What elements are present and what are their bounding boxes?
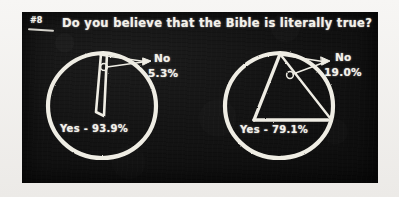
pie-radius-a-old-earth [254, 54, 280, 120]
slide-number-underline [28, 28, 54, 32]
chart-young-earth: Yes - 93.9% No 5.3% Young Earth [28, 40, 196, 180]
pie-value-no-young-earth: 5.3% [148, 67, 178, 79]
slide-number: #8 [30, 16, 42, 25]
pie-value-no-old-earth: 19.0% [324, 66, 362, 78]
slide-root: #8 Do you believe that the Bible is lite… [0, 0, 399, 197]
page-title: Do you believe that the Bible is literal… [62, 16, 372, 30]
leader-arrow-young-earth [143, 58, 151, 65]
pie-label-yes-young-earth: Yes - 93.9% [60, 123, 128, 134]
leader-node-old-earth [287, 72, 294, 79]
leader-arrow-old-earth [321, 57, 330, 65]
chalkboard: #8 Do you believe that the Bible is lite… [22, 12, 378, 183]
pie-label-no-old-earth: No [335, 51, 352, 63]
pie-outline-old-earth [225, 53, 333, 158]
chart-old-earth: Yes - 79.1% No 19.0% Old Earth [204, 40, 372, 180]
pie-label-yes-old-earth: Yes - 79.1% [240, 124, 308, 135]
pie-label-no-young-earth: No [154, 52, 171, 64]
